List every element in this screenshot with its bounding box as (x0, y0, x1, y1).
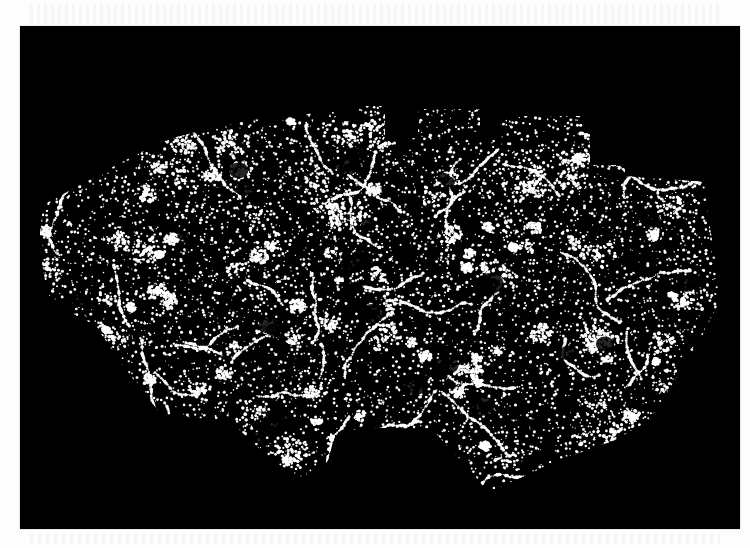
galaxy-points (28, 50, 728, 500)
page-bleed-through-text-top (30, 4, 720, 24)
survey-map-panel (20, 26, 740, 529)
galaxy-distribution-map (20, 26, 740, 529)
page-bleed-through-text-bottom (30, 534, 720, 544)
